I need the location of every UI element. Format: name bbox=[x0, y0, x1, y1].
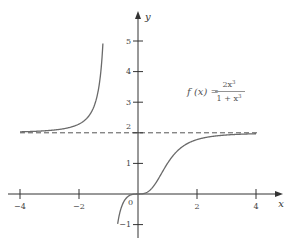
y-tick-label: −1 bbox=[119, 220, 131, 229]
x-axis-arrow-icon bbox=[275, 191, 283, 197]
function-plot: −4 −2 2 4 1 2 3 4 5 −1 0 x y f (x) = 2x3… bbox=[0, 0, 291, 241]
x-tick-label: 4 bbox=[253, 202, 258, 211]
x-tick-label: −4 bbox=[14, 202, 26, 211]
x-tick-label: 2 bbox=[194, 202, 199, 211]
origin-label: 0 bbox=[128, 198, 133, 207]
y-axis-label: y bbox=[144, 11, 151, 22]
x-axis-label: x bbox=[278, 198, 284, 209]
formula-lhs: f (x) = bbox=[186, 86, 219, 97]
y-tick-label: 4 bbox=[126, 67, 131, 76]
y-tick-label: 3 bbox=[126, 98, 131, 107]
y-tick-label: 5 bbox=[126, 37, 131, 46]
y-axis-arrow-icon bbox=[135, 11, 141, 19]
formula-numerator: 2x3 bbox=[222, 79, 236, 89]
curve-left-branch bbox=[20, 43, 103, 131]
formula-denominator: 1 + x3 bbox=[217, 93, 242, 103]
y-tick-label: 1 bbox=[126, 159, 131, 168]
y-tick-label: 2 bbox=[126, 122, 131, 131]
function-label: f (x) = 2x3 1 + x3 bbox=[186, 79, 245, 103]
x-tick-label: −2 bbox=[73, 202, 85, 211]
